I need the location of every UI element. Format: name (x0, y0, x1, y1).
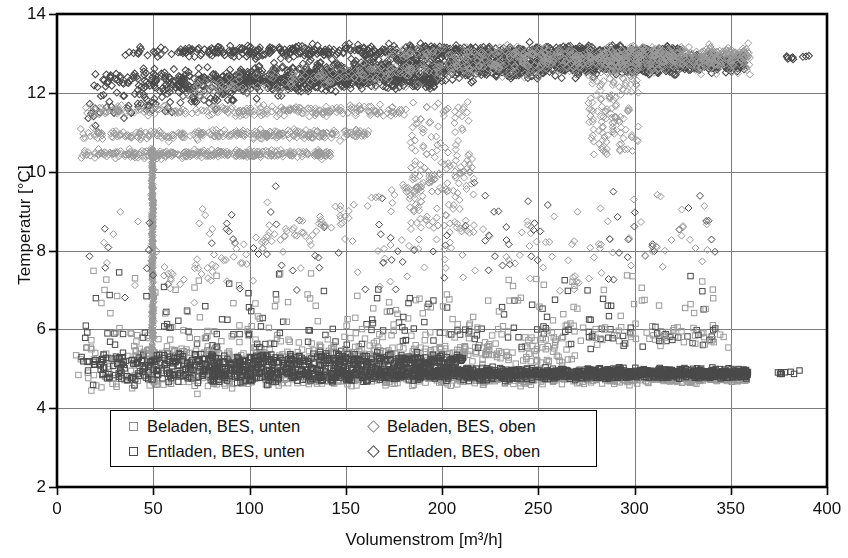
y-tick-label: 6 (8, 319, 46, 339)
x-tick-label: 50 (144, 499, 163, 519)
y-tick-label: 12 (8, 83, 46, 103)
legend-marker-diamond-icon (367, 445, 380, 458)
legend: Beladen, BES, untenBeladen, BES, obenEnt… (110, 410, 597, 467)
legend-item[interactable]: Entladen, BES, unten (129, 442, 305, 461)
y-tick-label: 4 (8, 398, 46, 418)
legend-item[interactable]: Beladen, BES, unten (129, 417, 300, 436)
legend-marker-square-icon (129, 447, 138, 456)
x-tick-label: 400 (813, 499, 841, 519)
x-tick-label: 200 (428, 499, 456, 519)
x-tick-label: 150 (332, 499, 360, 519)
legend-item-label: Entladen, BES, unten (147, 442, 305, 461)
x-tick-label: 300 (620, 499, 648, 519)
x-axis-title: Volumenstrom [m³/h] (0, 530, 848, 550)
legend-item[interactable]: Entladen, BES, oben (369, 442, 540, 461)
y-tick-label: 14 (8, 4, 46, 24)
y-tick-label: 8 (8, 241, 46, 261)
x-tick-label: 0 (52, 499, 61, 519)
legend-item-label: Beladen, BES, unten (147, 417, 300, 436)
legend-item-label: Beladen, BES, oben (387, 417, 536, 436)
legend-marker-square-icon (129, 422, 138, 431)
chart-page: Temperatur [°C] Volumenstrom [m³/h] 2468… (0, 0, 848, 558)
legend-marker-diamond-icon (367, 420, 380, 433)
legend-item[interactable]: Beladen, BES, oben (369, 417, 536, 436)
x-tick-label: 250 (524, 499, 552, 519)
y-tick-label: 10 (8, 162, 46, 182)
y-tick-label: 2 (8, 477, 46, 497)
scatter-plot-canvas (0, 0, 848, 558)
legend-item-label: Entladen, BES, oben (387, 442, 540, 461)
x-tick-label: 350 (717, 499, 745, 519)
y-axis-title: Temperatur [°C] (15, 115, 35, 335)
x-tick-label: 100 (235, 499, 263, 519)
